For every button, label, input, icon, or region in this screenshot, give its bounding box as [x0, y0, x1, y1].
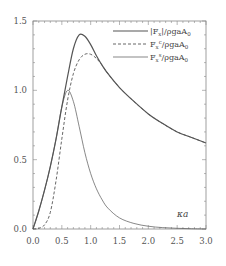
x-tick-label: 1.0: [84, 236, 98, 246]
x-axis-label: κa: [176, 209, 188, 219]
x-tick-label: 1.5: [113, 236, 127, 246]
legend-label: Fxc/ρgaA0: [150, 39, 189, 50]
legend-label: |Fx|/ρgaA0: [150, 27, 191, 37]
x-tick-label: 2.0: [142, 236, 156, 246]
y-tick-label: 0.5: [13, 155, 27, 165]
series-line-dashed: [33, 54, 206, 229]
x-tick-label: 0.0: [26, 236, 40, 246]
x-tick-label: 3.0: [199, 236, 213, 246]
x-axis-tick-labels: 0.00.51.01.52.02.53.0: [26, 236, 213, 246]
y-tick-label: 1.5: [13, 16, 27, 26]
legend: |Fx|/ρgaA0Fxc/ρgaA0Fxs/ρgaA0: [113, 27, 191, 63]
line-chart: 0.00.51.01.5 0.00.51.01.52.02.53.0 |Fx|/…: [0, 0, 226, 266]
y-tick-label: 1.0: [13, 85, 27, 95]
series-line-solid: [33, 34, 206, 229]
legend-label: Fxs/ρgaA0: [150, 52, 189, 63]
x-tick-label: 2.5: [170, 236, 184, 246]
y-axis-tick-labels: 0.00.51.01.5: [13, 16, 27, 234]
data-series: [33, 34, 206, 229]
y-tick-label: 0.0: [13, 224, 27, 234]
x-tick-label: 0.5: [55, 236, 69, 246]
